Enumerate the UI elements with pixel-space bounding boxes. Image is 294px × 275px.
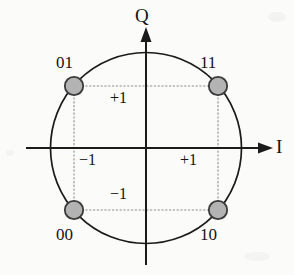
symbol-label-11: 11 <box>200 54 216 71</box>
figure-canvas: Q I 01 11 00 10 +1 −1 −1 +1 <box>0 0 294 275</box>
symbol-label-01: 01 <box>56 54 73 71</box>
symbol-marker-10 <box>209 201 227 219</box>
i-axis-arrowhead <box>258 143 273 154</box>
symbol-marker-11 <box>209 77 227 95</box>
tick-label-i-negative: −1 <box>79 152 96 168</box>
q-axis-arrowhead <box>141 27 152 42</box>
symbol-marker-00 <box>65 201 83 219</box>
symbol-marker-01 <box>65 77 83 95</box>
symbol-label-10: 10 <box>200 226 217 243</box>
tick-label-q-positive: +1 <box>110 90 127 106</box>
symbol-label-00: 00 <box>56 226 73 243</box>
i-axis-label: I <box>276 137 282 156</box>
tick-label-q-negative: −1 <box>110 186 127 202</box>
constellation-plot <box>0 0 294 275</box>
q-axis-label: Q <box>135 6 149 25</box>
tick-label-i-positive: +1 <box>180 152 197 168</box>
